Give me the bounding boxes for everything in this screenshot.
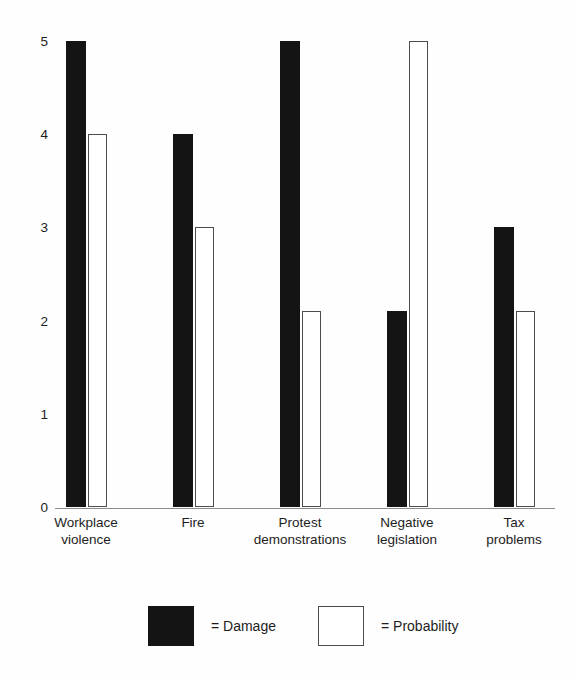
bar-probability-tax-problems — [516, 311, 535, 507]
y-tick-4: 4 — [26, 128, 48, 142]
bar-probability-fire — [195, 227, 214, 507]
bar-damage-protest-demonstrations — [280, 41, 300, 507]
chart-legend: = Damage = Probability — [0, 606, 575, 661]
bar-damage-tax-problems — [494, 227, 514, 507]
bar-probability-workplace-violence — [88, 134, 107, 507]
bar-group-tax-problems — [483, 30, 575, 508]
category-line-1: Tax — [444, 514, 575, 531]
y-tick-2: 2 — [26, 315, 48, 329]
bar-chart-figure: 5 4 3 2 1 0 — [0, 0, 575, 680]
x-category-label-tax-problems: Tax problems — [444, 514, 575, 548]
bar-damage-fire — [173, 134, 193, 507]
bar-damage-negative-legislation — [387, 311, 407, 507]
y-tick-0: 0 — [26, 501, 48, 515]
y-axis-tick-labels: 5 4 3 2 1 0 — [20, 30, 48, 508]
bar-group-protest-demonstrations — [269, 30, 376, 508]
bar-probability-protest-demonstrations — [302, 311, 321, 507]
bar-group-workplace-violence — [55, 30, 162, 508]
category-line-2: problems — [444, 531, 575, 548]
category-line-2: violence — [16, 531, 156, 548]
legend-swatch-damage-icon — [148, 606, 194, 646]
plot-area — [55, 30, 555, 508]
y-tick-5: 5 — [26, 35, 48, 49]
legend-label-damage: = Damage — [211, 618, 276, 634]
bar-probability-negative-legislation — [409, 41, 428, 507]
bar-damage-workplace-violence — [66, 41, 86, 507]
legend-entry-damage: = Damage — [148, 606, 276, 646]
y-tick-1: 1 — [26, 408, 48, 422]
x-axis-line — [55, 508, 555, 509]
legend-swatch-probability-icon — [318, 606, 364, 646]
bar-group-fire — [162, 30, 269, 508]
legend-entry-probability: = Probability — [318, 606, 458, 646]
bar-group-negative-legislation — [376, 30, 483, 508]
legend-label-probability: = Probability — [381, 618, 458, 634]
y-tick-3: 3 — [26, 221, 48, 235]
